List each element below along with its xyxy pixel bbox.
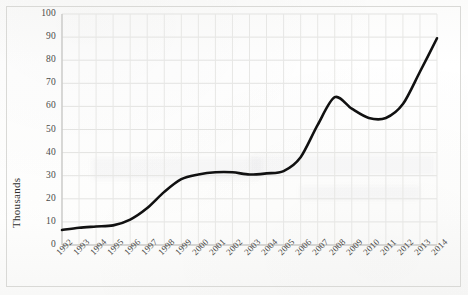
y-tick-label: 70 bbox=[20, 77, 56, 87]
x-tick-mark bbox=[437, 246, 439, 248]
x-tick-mark bbox=[79, 246, 81, 248]
x-tick-mark bbox=[369, 246, 371, 248]
y-tick-label: 0 bbox=[20, 239, 56, 249]
y-tick-label: 20 bbox=[20, 193, 56, 203]
y-tick-label: 80 bbox=[20, 54, 56, 64]
x-tick-mark bbox=[335, 246, 337, 248]
x-tick-mark bbox=[420, 246, 422, 248]
x-tick-mark bbox=[301, 246, 303, 248]
y-tick-label: 90 bbox=[20, 31, 56, 41]
chart-plot-container: 0102030405060708090100 19921993199419951… bbox=[0, 0, 468, 295]
scanned-chart-page: Thousands 0102030405060708090100 1992199… bbox=[0, 0, 468, 295]
y-tick-label: 60 bbox=[20, 100, 56, 110]
y-tick-label: 40 bbox=[20, 147, 56, 157]
x-tick-mark bbox=[62, 246, 64, 248]
gridlines bbox=[62, 14, 437, 245]
y-tick-label: 10 bbox=[20, 216, 56, 226]
y-tick-label: 50 bbox=[20, 124, 56, 134]
x-tick-mark bbox=[250, 246, 252, 248]
y-tick-label: 100 bbox=[20, 8, 56, 18]
x-tick-mark bbox=[403, 246, 405, 248]
x-tick-mark bbox=[318, 246, 320, 248]
x-tick-mark bbox=[267, 246, 269, 248]
y-tick-label: 30 bbox=[20, 170, 56, 180]
x-tick-mark bbox=[352, 246, 354, 248]
x-tick-mark bbox=[284, 246, 286, 248]
x-tick-mark bbox=[386, 246, 388, 248]
